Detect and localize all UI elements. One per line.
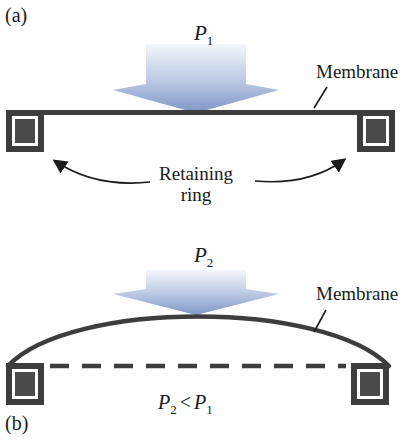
membrane-label-b: Membrane <box>316 284 398 305</box>
pressure-label-p1: P1 <box>194 22 213 45</box>
p1-base: P <box>194 21 207 45</box>
ineq-lhs-base: P <box>158 391 170 413</box>
ineq-rhs-sub: 1 <box>206 402 213 417</box>
retaining-ring-b-right <box>351 363 389 405</box>
panel-a-tag: (a) <box>5 4 27 26</box>
retaining-ring-arrow-left <box>55 161 150 183</box>
pressure-inequality: P2<P1 <box>158 391 213 413</box>
membrane-b-leader-line <box>314 310 326 332</box>
ineq-lhs-sub: 2 <box>170 402 177 417</box>
pressure-label-p2: P2 <box>194 244 213 267</box>
retaining-ring-a-right <box>357 110 395 152</box>
membrane-label-a: Membrane <box>316 62 398 83</box>
ineq-operator: < <box>177 391 194 413</box>
membrane-bowed <box>8 317 389 367</box>
panel-b-tag: (b) <box>5 412 28 434</box>
figure-canvas: (a) P1 Membrane Retaining ring P2 Membra… <box>0 0 417 440</box>
retaining-ring-b-left <box>6 363 44 405</box>
pressure-arrow-p2-icon <box>113 270 279 315</box>
retaining-ring-label-line1: Retaining <box>146 164 246 185</box>
p2-sub: 2 <box>207 255 214 270</box>
p1-sub: 1 <box>207 33 214 48</box>
p2-base: P <box>194 243 207 267</box>
retaining-ring-label-line2: ring <box>146 185 246 206</box>
retaining-ring-label: Retaining ring <box>146 164 246 206</box>
membrane-flat <box>6 110 395 115</box>
membrane-a-leader-line <box>314 87 327 108</box>
ineq-rhs-base: P <box>194 391 206 413</box>
retaining-ring-a-left <box>6 110 44 152</box>
retaining-ring-arrow-right <box>255 160 344 182</box>
pressure-arrow-p1-icon <box>113 44 279 113</box>
